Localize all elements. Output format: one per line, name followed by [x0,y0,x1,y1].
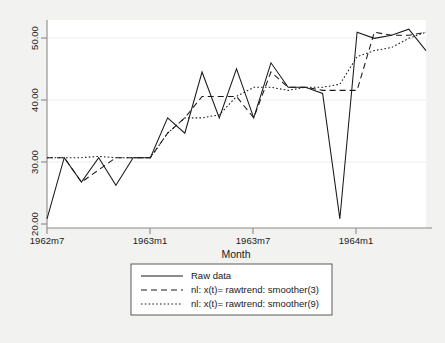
x-tick-label-1963m1: 1963m1 [133,235,167,246]
legend: Raw data nl: x(t)= rawtrend: smoother(3)… [131,264,332,315]
y-tick-label-20: 20.00 [29,212,40,236]
legend-label-smoother3: nl: x(t)= rawtrend: smoother(3) [191,284,319,295]
legend-label-raw-data: Raw data [191,270,232,281]
x-tick-label-1962m7: 1962m7 [30,235,64,246]
y-tick-label-30: 30.00 [29,150,40,174]
plot-area-background [47,20,426,228]
y-tick-label-50: 50.00 [29,26,40,50]
legend-label-smoother9: nl: x(t)= rawtrend: smoother(9) [191,298,319,309]
stata-line-chart-figure: 50.00 40.00 30.00 20.00 1962m7 1963m1 19… [0,0,445,343]
y-tick-label-40: 40.00 [29,88,40,112]
x-tick-label-1963m7: 1963m7 [236,235,270,246]
x-axis-title: Month [221,248,250,260]
x-tick-label-1964m1: 1964m1 [339,235,373,246]
chart-canvas: 50.00 40.00 30.00 20.00 1962m7 1963m1 19… [0,0,445,343]
